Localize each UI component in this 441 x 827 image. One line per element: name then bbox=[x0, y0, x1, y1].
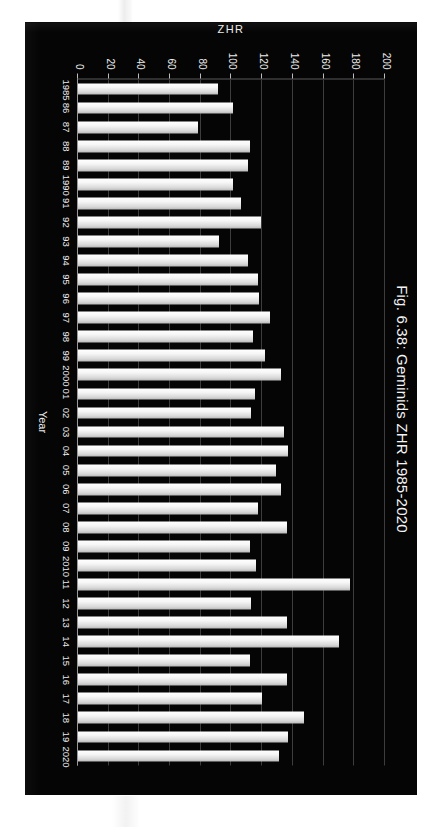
chart-title: Fig. 6.38: Geminids ZHR 1985-2020 bbox=[394, 22, 411, 795]
bar-slot bbox=[78, 388, 385, 400]
bar-slot bbox=[78, 635, 385, 647]
x-axis-tick-label: 02 bbox=[61, 403, 72, 422]
bar-slot bbox=[78, 102, 385, 114]
axis-tick bbox=[138, 73, 139, 78]
bar-slot bbox=[78, 311, 385, 323]
bar-slot bbox=[78, 578, 385, 590]
y-axis-tick-label: 80 bbox=[197, 39, 208, 69]
bar-slot bbox=[78, 140, 385, 152]
y-axis-tick-label: 0 bbox=[74, 39, 85, 69]
bar bbox=[78, 83, 218, 95]
bar bbox=[78, 711, 304, 723]
axis-tick bbox=[200, 73, 201, 78]
bar bbox=[78, 273, 258, 285]
figure-panel: Fig. 6.38: Geminids ZHR 1985-2020 020406… bbox=[25, 22, 417, 795]
bar-slot bbox=[78, 121, 385, 133]
x-axis-title: Year bbox=[37, 78, 49, 765]
axis-tick bbox=[77, 73, 78, 78]
bar bbox=[78, 102, 233, 114]
y-axis-tick-label: 20 bbox=[105, 39, 116, 69]
bar bbox=[78, 178, 233, 190]
bar-slot bbox=[78, 368, 385, 380]
bar-slot bbox=[78, 711, 385, 723]
bar-slot bbox=[78, 483, 385, 495]
x-axis-tick-label: 97 bbox=[61, 308, 72, 327]
x-axis-tick-label: 01 bbox=[61, 384, 72, 403]
bar bbox=[78, 597, 251, 609]
bar bbox=[78, 502, 258, 514]
bar bbox=[78, 445, 288, 457]
x-axis-tick-label: 94 bbox=[61, 251, 72, 270]
y-axis-tick-label: 100 bbox=[228, 39, 239, 69]
bar-slot bbox=[78, 235, 385, 247]
x-axis-tick-label: 14 bbox=[61, 632, 72, 651]
bar-slot bbox=[78, 673, 385, 685]
bar-slot bbox=[78, 616, 385, 628]
bar bbox=[78, 216, 261, 228]
bar bbox=[78, 635, 339, 647]
bar bbox=[78, 616, 287, 628]
y-axis-tick-label: 40 bbox=[135, 39, 146, 69]
axis-tick bbox=[384, 73, 385, 78]
bar bbox=[78, 750, 279, 762]
bar-slot bbox=[78, 731, 385, 743]
y-axis-tick-label: 60 bbox=[166, 39, 177, 69]
y-axis-tick-label: 140 bbox=[289, 39, 300, 69]
bar-slot bbox=[78, 654, 385, 666]
axis-tick bbox=[261, 73, 262, 78]
y-axis-title: ZHR bbox=[218, 22, 245, 34]
bar-slot bbox=[78, 692, 385, 704]
bar bbox=[78, 483, 281, 495]
x-axis-tick-label: 2010 bbox=[61, 555, 72, 574]
x-axis-tick-label: 98 bbox=[61, 327, 72, 346]
bar-slot bbox=[78, 597, 385, 609]
axis-tick bbox=[108, 73, 109, 78]
y-axis-tick-label: 160 bbox=[320, 39, 331, 69]
bar bbox=[78, 407, 251, 419]
bar bbox=[78, 559, 256, 571]
bar bbox=[78, 426, 284, 438]
page-edge-bottom bbox=[112, 796, 140, 827]
x-axis-tick-label: 13 bbox=[61, 613, 72, 632]
bar-slot bbox=[78, 216, 385, 228]
bar bbox=[78, 540, 250, 552]
bar bbox=[78, 731, 288, 743]
bar-slot bbox=[78, 83, 385, 95]
bar-slot bbox=[78, 159, 385, 171]
x-axis-tick-label: 04 bbox=[61, 441, 72, 460]
bar bbox=[78, 159, 248, 171]
x-axis-tick-label: 86 bbox=[61, 98, 72, 117]
bar-slot bbox=[78, 407, 385, 419]
bar bbox=[78, 140, 250, 152]
x-axis-tick-label: 89 bbox=[61, 155, 72, 174]
bar bbox=[78, 254, 248, 266]
x-axis-tick-label: 06 bbox=[61, 479, 72, 498]
x-axis-tick-label: 96 bbox=[61, 289, 72, 308]
axis-tick bbox=[353, 73, 354, 78]
x-axis-tick-label: 1990 bbox=[61, 174, 72, 193]
x-axis-tick-label: 87 bbox=[61, 117, 72, 136]
y-axis-tick-label: 200 bbox=[381, 39, 392, 69]
y-axis-tick-label: 180 bbox=[350, 39, 361, 69]
x-axis-tick-label: 17 bbox=[61, 689, 72, 708]
x-axis-tick-label: 95 bbox=[61, 270, 72, 289]
bar-slot bbox=[78, 292, 385, 304]
x-axis-tick-label: 18 bbox=[61, 708, 72, 727]
bar-slot bbox=[78, 254, 385, 266]
bar bbox=[78, 121, 198, 133]
x-axis-tick-label: 91 bbox=[61, 193, 72, 212]
x-axis-tick-label: 1985 bbox=[61, 79, 72, 98]
bar-slot bbox=[78, 197, 385, 209]
axis-tick bbox=[169, 73, 170, 78]
x-axis-tick-label: 2020 bbox=[61, 746, 72, 765]
bar bbox=[78, 578, 350, 590]
bar bbox=[78, 521, 287, 533]
bar-slot bbox=[78, 540, 385, 552]
bar bbox=[78, 235, 219, 247]
bar-slot bbox=[78, 502, 385, 514]
bar bbox=[78, 311, 270, 323]
x-axis-tick-label: 03 bbox=[61, 422, 72, 441]
x-axis-tick-label: 19 bbox=[61, 727, 72, 746]
x-axis-tick-label: 09 bbox=[61, 536, 72, 555]
x-axis-tick-label: 11 bbox=[61, 574, 72, 593]
